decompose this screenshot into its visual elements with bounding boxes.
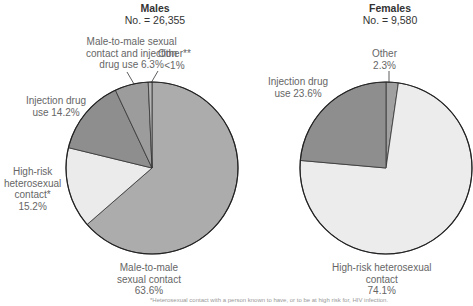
males-pie <box>66 82 238 254</box>
label-female-other: Other 2.3% <box>372 48 397 71</box>
label-male-idu: Injection drug use 14.2% <box>26 95 86 118</box>
pie-charts <box>0 0 473 306</box>
males-title: Males <box>100 2 210 14</box>
label-female-idu: Injection drug use 23.6% <box>268 76 328 99</box>
males-title-block: Males No. = 26,355 <box>100 2 210 26</box>
label-female-hetero: High-risk heterosexual contact 74.1% <box>332 262 432 297</box>
footnote: *Heterosexual contact with a person know… <box>150 297 388 303</box>
females-pie <box>300 82 472 254</box>
leader-line-other <box>151 71 158 83</box>
label-male-hetero: High-risk heterosexual contact* 15.2% <box>4 166 61 212</box>
males-count: No. = 26,355 <box>100 14 210 26</box>
females-title: Females <box>335 2 445 14</box>
females-title-block: Females No. = 9,580 <box>335 2 445 26</box>
leader-line-mtm-idu <box>127 72 134 84</box>
label-male-mtm: Male-to-male sexual contact 63.6% <box>117 262 181 297</box>
label-male-other: Other** <1% <box>158 48 191 71</box>
females-count: No. = 9,580 <box>335 14 445 26</box>
